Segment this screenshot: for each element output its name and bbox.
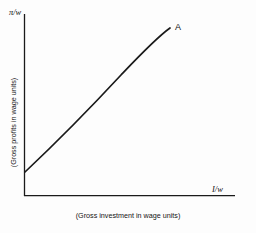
x-axis-caption: (Gross investment in wage units)	[0, 211, 256, 220]
figure-container: π/w I/w A (Gross profits in wage units) …	[0, 0, 256, 233]
y-axis-caption: (Gross profits in wage units)	[9, 58, 18, 188]
y-axis-symbol-label: π/w	[9, 7, 21, 17]
plot-canvas	[0, 0, 256, 233]
profit-curve	[25, 28, 170, 172]
curve-endpoint-label-a: A	[175, 22, 181, 32]
x-axis-symbol-label: I/w	[212, 184, 223, 194]
